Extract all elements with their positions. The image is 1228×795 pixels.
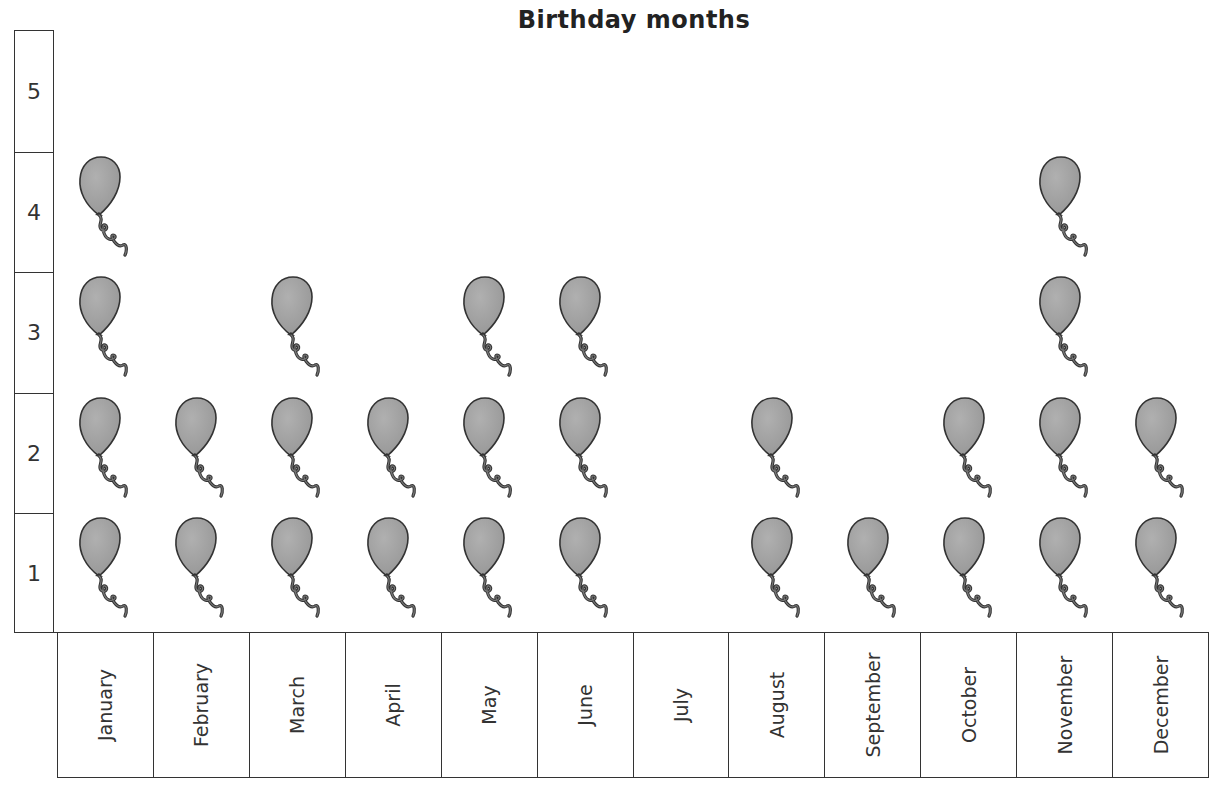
month-label: April — [382, 683, 404, 726]
month-label: June — [574, 684, 596, 725]
column-march — [249, 30, 345, 633]
x-category-cell: July — [633, 633, 729, 777]
month-label: December — [1150, 656, 1172, 755]
x-category-cell: June — [537, 633, 633, 777]
x-category-cell: August — [728, 633, 824, 777]
column-february — [153, 30, 249, 633]
balloon-icon — [173, 396, 229, 508]
month-label: January — [94, 669, 116, 741]
column-july — [633, 30, 729, 633]
x-category-cell: December — [1112, 633, 1208, 777]
balloon-icon — [269, 396, 325, 508]
x-category-cell: January — [58, 633, 153, 777]
column-january — [57, 30, 153, 633]
y-tick-label: 4 — [15, 152, 53, 272]
balloon-icon — [557, 275, 613, 387]
balloon-icon — [941, 516, 997, 628]
y-tick-label: 5 — [15, 31, 53, 151]
balloon-icon — [1133, 396, 1189, 508]
column-september — [825, 30, 921, 633]
y-tick-label: 3 — [15, 272, 53, 392]
column-may — [441, 30, 537, 633]
balloon-icon — [1133, 516, 1189, 628]
x-category-cell: March — [249, 633, 345, 777]
month-label: May — [478, 685, 500, 724]
balloon-icon — [845, 516, 901, 628]
x-category-cell: April — [345, 633, 441, 777]
column-april — [345, 30, 441, 633]
month-label: August — [766, 672, 788, 739]
balloon-icon — [173, 516, 229, 628]
column-november — [1017, 30, 1113, 633]
balloon-icon — [1037, 155, 1093, 267]
y-tick-label: 2 — [15, 393, 53, 513]
x-category-cell: November — [1016, 633, 1112, 777]
x-axis: JanuaryFebruaryMarchAprilMayJuneJulyAugu… — [57, 633, 1209, 778]
x-category-cell: October — [920, 633, 1016, 777]
balloon-icon — [461, 396, 517, 508]
plot-area — [54, 30, 1208, 633]
month-label: October — [958, 667, 980, 743]
column-june — [537, 30, 633, 633]
y-tick-label: 1 — [15, 513, 53, 633]
balloon-icon — [77, 155, 133, 267]
month-label: February — [190, 663, 212, 747]
balloon-icon — [461, 516, 517, 628]
x-category-cell: May — [441, 633, 537, 777]
column-december — [1113, 30, 1209, 633]
balloon-icon — [365, 516, 421, 628]
balloon-icon — [77, 516, 133, 628]
balloon-icon — [1037, 516, 1093, 628]
balloon-icon — [269, 516, 325, 628]
y-axis: 54321 — [14, 30, 54, 633]
balloon-icon — [1037, 396, 1093, 508]
balloon-icon — [749, 396, 805, 508]
balloon-icon — [557, 396, 613, 508]
balloon-icon — [77, 396, 133, 508]
balloon-icon — [1037, 275, 1093, 387]
column-august — [729, 30, 825, 633]
balloon-icon — [365, 396, 421, 508]
column-october — [921, 30, 1017, 633]
balloon-icon — [269, 275, 325, 387]
balloon-icon — [749, 516, 805, 628]
month-label: March — [286, 676, 308, 734]
month-label: September — [862, 652, 884, 757]
balloon-icon — [461, 275, 517, 387]
month-label: July — [670, 688, 692, 722]
month-label: November — [1054, 656, 1076, 755]
x-category-cell: February — [153, 633, 249, 777]
x-category-cell: September — [824, 633, 920, 777]
balloon-icon — [941, 396, 997, 508]
balloon-icon — [557, 516, 613, 628]
balloon-icon — [77, 275, 133, 387]
